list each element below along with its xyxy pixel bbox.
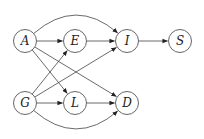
node-s: S <box>169 30 192 53</box>
node-s-label: S <box>176 34 184 48</box>
node-d: D <box>116 92 139 115</box>
node-l: L <box>64 92 87 115</box>
node-g: G <box>14 92 37 115</box>
edges <box>32 15 167 129</box>
node-a: A <box>14 30 37 53</box>
edge-a-to-d <box>35 47 116 97</box>
nodes: AEISGLD <box>14 30 192 115</box>
node-e: E <box>64 30 87 53</box>
node-e-label: E <box>70 34 80 48</box>
node-g-label: G <box>20 96 30 110</box>
node-i-label: I <box>124 34 130 48</box>
node-d-label: D <box>121 96 132 110</box>
edge-g-to-i <box>35 47 116 97</box>
node-i: I <box>116 30 139 53</box>
node-a-label: A <box>20 34 30 48</box>
dependency-graph: AEISGLD <box>0 0 204 139</box>
node-l-label: L <box>70 96 79 110</box>
